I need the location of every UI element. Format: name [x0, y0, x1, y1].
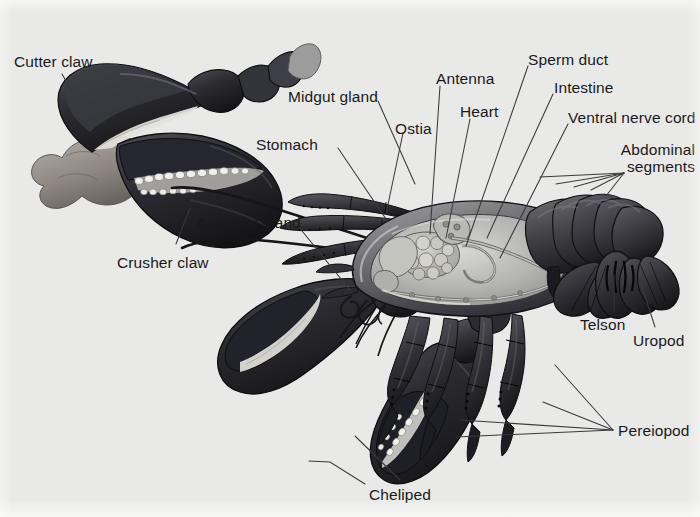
leader-pereiopod-1: [555, 365, 613, 430]
ostium-2: [454, 224, 460, 230]
leader-abdseg-5: [606, 173, 624, 196]
label-uropod: Uropod: [633, 333, 684, 350]
label-pereiopod: Pereiopod: [618, 423, 690, 440]
label-intestine: Intestine: [554, 80, 614, 97]
label-abdominal-segments: Abdominal segments: [621, 142, 695, 175]
label-antennal-gland: Antennal gland: [196, 215, 301, 232]
label-heart: Heart: [460, 104, 498, 121]
label-sperm-duct: Sperm duct: [528, 52, 608, 69]
label-ostia: Ostia: [395, 121, 432, 138]
label-ventral-nerve-cord: Ventral nerve cord: [568, 110, 696, 127]
label-midgut-gland: Midgut gland: [288, 89, 378, 106]
leader-ostia: [386, 133, 403, 214]
label-stomach: Stomach: [256, 137, 318, 154]
leader-pereiopod-3: [460, 420, 613, 430]
label-antenna: Antenna: [436, 71, 494, 88]
leader-cheliped-2: [309, 461, 365, 484]
label-telson: Telson: [580, 317, 625, 334]
label-cheliped: Cheliped: [369, 487, 431, 504]
anatomy-figure: Cutter clawMidgut glandStomachOstiaAnten…: [0, 0, 700, 517]
leader-midgut-gland: [378, 101, 415, 184]
lobster-illustration: [0, 0, 700, 517]
label-crusher-claw: Crusher claw: [117, 255, 209, 272]
label-cutter-claw: Cutter claw: [14, 54, 93, 71]
